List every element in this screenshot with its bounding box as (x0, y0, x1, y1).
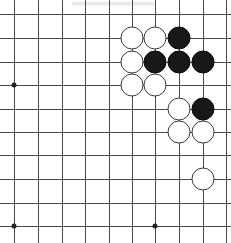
grid-line-vertical-9 (226, 0, 227, 243)
grid-line-vertical-1 (38, 0, 39, 243)
grid-line-horizontal-1 (0, 38, 231, 39)
star-point-2 (153, 224, 158, 229)
white-stone[interactable] (168, 98, 191, 121)
star-point-0 (12, 83, 17, 88)
white-stone[interactable] (121, 27, 144, 50)
black-stone[interactable] (168, 27, 191, 50)
black-stone[interactable] (192, 51, 215, 74)
white-stone[interactable] (121, 51, 144, 74)
grid-line-horizontal-0 (0, 14, 231, 15)
white-stone[interactable] (168, 121, 191, 144)
grid-line-horizontal-9 (0, 226, 231, 227)
white-stone[interactable] (121, 74, 144, 97)
grid-line-horizontal-3 (0, 85, 231, 86)
white-stone[interactable] (144, 74, 167, 97)
star-point-1 (12, 224, 17, 229)
grid-line-vertical-4 (109, 0, 110, 243)
white-stone[interactable] (144, 27, 167, 50)
grid-line-vertical-0 (14, 0, 15, 243)
grid-line-horizontal-6 (0, 155, 231, 156)
grid-line-horizontal-8 (0, 203, 231, 204)
grid-line-vertical-2 (62, 0, 63, 243)
white-stone[interactable] (192, 121, 215, 144)
black-stone[interactable] (192, 98, 215, 121)
grid-line-vertical-3 (85, 0, 86, 243)
go-board-figure: Go board position diagram (0, 0, 231, 243)
go-board-grid[interactable] (0, 0, 231, 243)
white-stone[interactable] (192, 168, 215, 191)
black-stone[interactable] (144, 51, 167, 74)
black-stone[interactable] (168, 51, 191, 74)
